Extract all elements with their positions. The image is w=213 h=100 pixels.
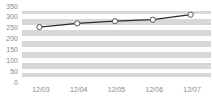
gridline bbox=[22, 58, 211, 63]
y-tick-label: 50 bbox=[10, 68, 18, 75]
x-tick-label: 12/03 bbox=[32, 86, 50, 94]
x-tick-label: 12/04 bbox=[70, 86, 88, 94]
plot-area bbox=[22, 6, 211, 82]
gridline bbox=[22, 77, 211, 82]
x-tick-label: 12/06 bbox=[146, 86, 164, 94]
gridline bbox=[22, 6, 211, 11]
y-tick-label: 150 bbox=[6, 46, 18, 53]
gridline bbox=[22, 69, 211, 74]
x-tick-label: 12/05 bbox=[108, 86, 126, 94]
gridline bbox=[22, 47, 211, 52]
x-tick-label: 12/07 bbox=[183, 86, 201, 94]
gridline bbox=[22, 14, 211, 19]
gridline bbox=[22, 36, 211, 41]
y-tick-label: 250 bbox=[6, 24, 18, 31]
y-tick-label: 100 bbox=[6, 57, 18, 64]
y-axis: 350 300 250 200 150 100 50 0 bbox=[0, 0, 20, 100]
gridline bbox=[22, 25, 211, 30]
y-tick-label: 200 bbox=[6, 35, 18, 42]
y-tick-label: 300 bbox=[6, 13, 18, 20]
x-axis: 12/03 12/04 12/05 12/06 12/07 bbox=[0, 86, 213, 98]
y-tick-label: 0 bbox=[14, 79, 18, 86]
line-chart: 350 300 250 200 150 100 50 0 12/03 12/04… bbox=[0, 0, 213, 100]
y-tick-label: 350 bbox=[6, 3, 18, 10]
